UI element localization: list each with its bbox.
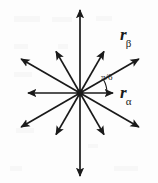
- angle-annotation-pi-over-6: π/6: [101, 73, 113, 82]
- vector-star-figure: rβ rα π/6: [0, 0, 158, 183]
- vector-label-r-alpha-subscript: α: [126, 95, 132, 107]
- vector-label-r-beta-subscript: β: [126, 37, 132, 49]
- vector-star-diagram: [0, 0, 158, 183]
- vector-label-r-beta: rβ: [120, 26, 132, 46]
- origin-point: [77, 90, 84, 97]
- vector-label-r-alpha: rα: [120, 84, 132, 104]
